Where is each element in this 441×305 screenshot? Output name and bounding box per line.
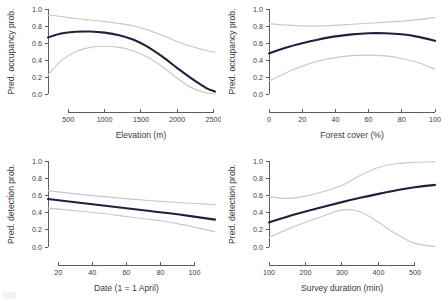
x-tick-label: 40 bbox=[88, 268, 96, 277]
x-tick-label: 200 bbox=[299, 268, 311, 277]
x-tick-label: 40 bbox=[331, 115, 339, 124]
x-tick-label: 500 bbox=[62, 115, 74, 124]
x-axis-title: Forest cover (%) bbox=[320, 130, 384, 140]
y-tick-label: 0.2 bbox=[253, 73, 263, 82]
y-axis-title: Pred. detection prob. bbox=[6, 164, 16, 244]
x-tick-label: 60 bbox=[122, 268, 130, 277]
y-tick-label: 1.0 bbox=[253, 5, 263, 14]
y-tick-label: 0.8 bbox=[32, 174, 42, 183]
y-tick-label: 0.2 bbox=[253, 225, 263, 234]
y-tick-label: 1.0 bbox=[32, 157, 42, 166]
y-axis-title: Pred. occupancy prob. bbox=[6, 9, 16, 95]
y-tick-label: 0.8 bbox=[253, 22, 263, 31]
x-tick-label: 100 bbox=[263, 268, 275, 277]
y-tick-label: 0.0 bbox=[32, 243, 42, 252]
y-tick-label: 0.0 bbox=[32, 90, 42, 99]
y-tick-label: 0.4 bbox=[253, 208, 263, 217]
x-tick-label: 1000 bbox=[97, 115, 113, 124]
multi-panel-figure: 0.00.20.40.60.81.0Pred. occupancy prob.5… bbox=[0, 0, 441, 305]
y-tick-label: 0.6 bbox=[253, 191, 263, 200]
x-tick-label: 60 bbox=[365, 115, 373, 124]
y-tick-label: 0.0 bbox=[253, 90, 263, 99]
scan-artifact bbox=[3, 292, 16, 299]
upper-ci-line bbox=[48, 15, 215, 52]
x-axis-title: Survey duration (min) bbox=[301, 283, 383, 293]
y-tick-label: 0.2 bbox=[32, 225, 42, 234]
x-tick-label: 500 bbox=[409, 268, 421, 277]
y-tick-label: 0.0 bbox=[253, 243, 263, 252]
x-tick-label: 0 bbox=[267, 115, 271, 124]
lower-ci-line bbox=[48, 46, 215, 94]
y-tick-label: 0.8 bbox=[253, 174, 263, 183]
panel-elevation: 0.00.20.40.60.81.0Pred. occupancy prob.5… bbox=[0, 0, 221, 152]
y-axis-title: Pred. detection prob. bbox=[227, 164, 237, 244]
panel-date: 0.00.20.40.60.81.0Pred. detection prob.2… bbox=[0, 152, 221, 305]
upper-ci-line bbox=[269, 17, 435, 26]
x-tick-label: 100 bbox=[429, 115, 441, 124]
lower-ci-line bbox=[269, 55, 435, 81]
y-tick-label: 0.8 bbox=[32, 22, 42, 31]
y-tick-label: 0.2 bbox=[32, 73, 42, 82]
fit-line bbox=[269, 33, 435, 53]
y-tick-label: 1.0 bbox=[253, 157, 263, 166]
x-tick-label: 1500 bbox=[133, 115, 149, 124]
fit-line bbox=[48, 31, 215, 91]
y-tick-label: 1.0 bbox=[32, 5, 42, 14]
x-tick-label: 300 bbox=[336, 268, 348, 277]
fit-line bbox=[269, 185, 435, 223]
y-axis-title: Pred. occupancy prob. bbox=[227, 9, 237, 95]
x-tick-label: 2000 bbox=[169, 115, 185, 124]
x-tick-label: 20 bbox=[54, 268, 62, 277]
x-tick-label: 400 bbox=[372, 268, 384, 277]
y-tick-label: 0.4 bbox=[32, 208, 42, 217]
lower-ci-line bbox=[48, 208, 215, 232]
x-tick-label: 100 bbox=[189, 268, 201, 277]
y-tick-label: 0.6 bbox=[32, 191, 42, 200]
y-tick-label: 0.4 bbox=[253, 56, 263, 65]
x-tick-label: 2500 bbox=[206, 115, 221, 124]
panel-survey-duration: 0.00.20.40.60.81.0Pred. detection prob.1… bbox=[221, 152, 441, 305]
upper-ci-line bbox=[269, 162, 435, 199]
y-tick-label: 0.6 bbox=[253, 39, 263, 48]
x-tick-label: 20 bbox=[298, 115, 306, 124]
y-tick-label: 0.4 bbox=[32, 56, 42, 65]
y-tick-label: 0.6 bbox=[32, 39, 42, 48]
x-axis-title: Elevation (m) bbox=[116, 130, 167, 140]
x-tick-label: 80 bbox=[156, 268, 164, 277]
panel-forest-cover: 0.00.20.40.60.81.0Pred. occupancy prob.0… bbox=[221, 0, 441, 152]
x-axis-title: Date (1 = 1 April) bbox=[94, 283, 159, 293]
x-tick-label: 80 bbox=[398, 115, 406, 124]
